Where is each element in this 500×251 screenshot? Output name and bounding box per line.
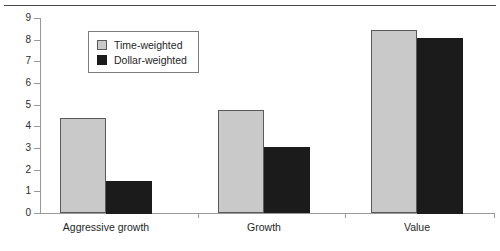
bar-growth-dollar-weighted — [264, 147, 310, 214]
bar-value-time-weighted — [371, 30, 417, 214]
y-tick-label: 6 — [25, 78, 31, 88]
x-axis-separator — [198, 213, 199, 218]
light-gray-swatch-icon — [97, 40, 107, 50]
black-swatch-icon — [97, 55, 107, 65]
y-tick-mark — [34, 170, 40, 171]
y-tick-mark — [34, 105, 40, 106]
bar-value-dollar-weighted — [417, 38, 463, 214]
y-tick-label: 0 — [25, 208, 31, 218]
y-tick-label: 9 — [25, 13, 31, 23]
legend-label: Dollar-weighted — [114, 54, 187, 66]
y-tick-mark — [34, 126, 40, 127]
x-axis-label-growth: Growth — [247, 221, 281, 233]
x-axis-separator — [345, 213, 346, 218]
bar-chart: 0 1 2 3 4 5 6 7 — [0, 0, 500, 251]
y-tick-label: 8 — [25, 35, 31, 45]
bar-aggressive-growth-time-weighted — [60, 118, 106, 214]
y-tick-mark — [34, 61, 40, 62]
y-tick-mark — [34, 148, 40, 149]
y-tick-label: 4 — [25, 121, 31, 131]
y-tick-label: 3 — [25, 143, 31, 153]
y-tick-mark — [34, 40, 40, 41]
x-axis-label-aggressive-growth: Aggressive growth — [63, 221, 149, 233]
y-tick-mark — [34, 191, 40, 192]
y-tick-mark — [34, 18, 40, 19]
x-axis-separator — [494, 213, 495, 218]
bar-growth-time-weighted — [218, 110, 264, 213]
legend-item-time-weighted: Time-weighted — [97, 37, 187, 52]
y-tick-label: 2 — [25, 165, 31, 175]
plot-area: 0 1 2 3 4 5 6 7 — [0, 0, 500, 251]
y-tick-label: 1 — [25, 186, 31, 196]
legend-label: Time-weighted — [114, 39, 182, 51]
y-tick-label: 5 — [25, 100, 31, 110]
x-axis-label-value: Value — [404, 221, 430, 233]
legend-item-dollar-weighted: Dollar-weighted — [97, 52, 187, 67]
y-tick-mark — [34, 83, 40, 84]
y-tick-label: 7 — [25, 56, 31, 66]
y-tick-mark — [34, 213, 40, 214]
y-axis-line — [40, 18, 41, 214]
bar-aggressive-growth-dollar-weighted — [106, 181, 152, 214]
chart-legend: Time-weighted Dollar-weighted — [88, 31, 199, 73]
